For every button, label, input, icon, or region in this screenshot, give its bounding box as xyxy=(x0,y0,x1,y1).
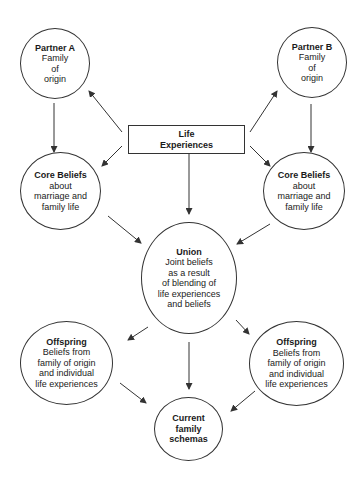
node-text: as a result xyxy=(168,268,210,279)
edge-core-left-to-union xyxy=(108,216,141,243)
node-title: schemas xyxy=(169,434,208,445)
node-partner-b: Partner B Family of origin xyxy=(277,27,347,98)
node-title: Partner A xyxy=(35,43,75,54)
node-text: Family xyxy=(42,53,69,64)
edge-core-right-to-union xyxy=(237,224,270,244)
node-core-beliefs-right: Core Beliefs about marriage and family l… xyxy=(263,152,345,230)
node-core-beliefs-left: Core Beliefs about marriage and family l… xyxy=(20,152,101,230)
node-title: Life xyxy=(178,129,194,140)
node-text: of xyxy=(308,63,316,74)
node-title: Core Beliefs xyxy=(34,170,87,181)
node-life-experiences: Life Experiences xyxy=(128,125,245,154)
edge-offspring-left-to-current xyxy=(120,383,146,403)
node-partner-a: Partner A Family of origin xyxy=(20,28,90,99)
node-union: Union Joint beliefs as a result of blend… xyxy=(141,222,237,334)
node-title: Experiences xyxy=(160,140,213,151)
edge-union-to-offspring-right xyxy=(236,320,249,334)
node-text: marriage and xyxy=(277,191,330,202)
node-title: Partner B xyxy=(292,42,333,53)
node-title: Offspring xyxy=(46,337,87,348)
node-text: Family xyxy=(299,52,326,63)
node-title: family xyxy=(175,424,201,435)
node-text: family of origin xyxy=(267,358,325,369)
edge-life-to-partner-b xyxy=(250,91,277,132)
node-text: and beliefs xyxy=(167,299,211,310)
node-text: family life xyxy=(42,202,80,213)
node-text: life experiences xyxy=(158,289,221,300)
node-text: of xyxy=(51,64,59,75)
node-text: of blending of xyxy=(162,278,216,289)
edge-life-to-partner-a xyxy=(89,91,122,132)
node-text: life experiences xyxy=(35,379,98,390)
edge-life-to-core-left xyxy=(102,146,122,166)
node-title: Union xyxy=(176,247,202,258)
edge-offspring-right-to-current xyxy=(231,391,255,411)
node-text: origin xyxy=(301,73,323,84)
node-offspring-left: Offspring Beliefs from family of origin … xyxy=(20,321,113,405)
node-text: life experiences xyxy=(265,379,328,390)
node-title: Offspring xyxy=(276,337,317,348)
edge-life-to-core-right xyxy=(250,146,270,166)
node-text: about xyxy=(293,181,316,192)
node-current-family-schemas: Current family schemas xyxy=(154,397,223,461)
node-text: family of origin xyxy=(37,358,95,369)
node-text: family life xyxy=(285,202,323,213)
edge-union-to-offspring-left xyxy=(128,327,148,340)
node-text: Joint beliefs xyxy=(165,257,213,268)
node-text: about xyxy=(49,181,72,192)
node-text: origin xyxy=(44,74,66,85)
node-text: Beliefs from xyxy=(43,347,91,358)
node-text: and individual xyxy=(269,369,324,380)
node-text: and individual xyxy=(39,368,94,379)
node-title: Current xyxy=(172,413,205,424)
node-text: Beliefs from xyxy=(273,348,321,359)
node-offspring-right: Offspring Beliefs from family of origin … xyxy=(249,321,344,406)
node-title: Core Beliefs xyxy=(278,170,331,181)
node-text: marriage and xyxy=(34,191,87,202)
